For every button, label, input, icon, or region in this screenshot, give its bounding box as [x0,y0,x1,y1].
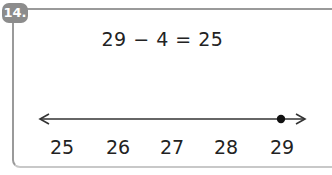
marked-point-29 [277,115,285,123]
tick-label-25: 25 [50,136,74,158]
problem-number-badge: 14. [2,3,28,23]
equation-text: 29 − 4 = 25 [0,28,325,50]
tick-label-26: 26 [106,136,130,158]
tick-label-29: 29 [270,136,294,158]
tick-label-28: 28 [214,136,238,158]
tick-label-27: 27 [160,136,184,158]
